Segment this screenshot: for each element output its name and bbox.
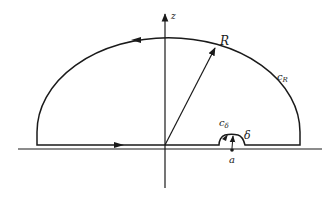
large-arc-label: cR bbox=[277, 71, 289, 84]
contour-path bbox=[37, 38, 300, 145]
point-a bbox=[230, 148, 234, 152]
arrow-left-icon bbox=[131, 37, 141, 43]
axis-label-z: z bbox=[170, 11, 176, 21]
small-radius-vector bbox=[232, 136, 233, 148]
contour-diagram: z R cR cδ δ a bbox=[0, 0, 335, 198]
small-arc-label: cδ bbox=[219, 117, 229, 130]
radius-label: R bbox=[219, 34, 229, 48]
point-label-a: a bbox=[229, 154, 235, 165]
small-radius-label: δ bbox=[244, 129, 251, 142]
large-arc-label-sub: R bbox=[282, 76, 289, 84]
small-arc-label-sub: δ bbox=[225, 122, 229, 130]
arrow-right-icon bbox=[114, 142, 124, 148]
radius-vector bbox=[165, 48, 215, 145]
